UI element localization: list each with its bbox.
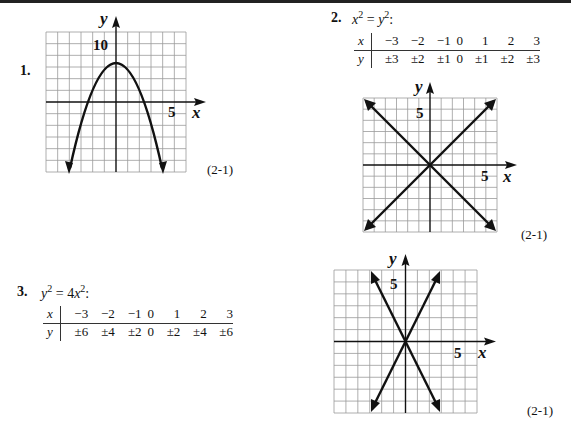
y-cell: ±6: [61, 324, 89, 342]
problem-2-equation: x2 = y2:: [352, 9, 393, 28]
y-header: y: [354, 51, 372, 69]
eq-colon: :: [85, 286, 89, 301]
eq-sign: =: [52, 286, 67, 301]
x-header: x: [43, 306, 61, 324]
x-header: x: [354, 33, 372, 51]
x-cell: −1: [115, 306, 142, 324]
y-cell: ±2: [115, 324, 142, 342]
problem-3-number: 3.: [17, 284, 28, 300]
y-cell: ±2: [399, 51, 425, 69]
y-cell: ±1: [463, 51, 489, 69]
x-tick-label: 5: [168, 104, 176, 120]
x-axis-label: x: [502, 167, 512, 186]
x-axis-label: x: [477, 343, 487, 362]
problem-3-equation: y2 = 4x2:: [41, 283, 89, 302]
eq-sign: =: [363, 12, 378, 27]
y-cell: ±3: [372, 51, 399, 69]
y-cell: 0: [142, 324, 155, 342]
y-cell: ±3: [514, 51, 540, 69]
y-tick-label: 5: [390, 276, 398, 292]
y-cell: ±4: [88, 324, 115, 342]
problem-2-number: 2.: [331, 10, 342, 26]
y-axis-label: y: [387, 249, 397, 268]
x-cell: 0: [142, 306, 155, 324]
x-cell: 3: [207, 306, 233, 324]
y-cell: ±6: [207, 324, 233, 342]
problem-2-reference: (2-1): [521, 227, 547, 243]
x-tick-label: 5: [481, 168, 489, 184]
y-tick-label: 10: [93, 37, 108, 53]
y-axis-label: y: [98, 9, 108, 28]
x-cell: −3: [372, 33, 399, 51]
x-row: x −3 −2 −1 0 1 2 3: [43, 306, 233, 324]
y-cell: ±2: [154, 324, 180, 342]
y-tick-label: 5: [416, 105, 424, 121]
problem-3-graph: 5 5 x y: [334, 250, 504, 420]
x-cell: −2: [88, 306, 115, 324]
x-cell: −1: [425, 33, 451, 51]
x-axis-label: x: [191, 103, 201, 122]
x-cell: −2: [399, 33, 425, 51]
y-axis-label: y: [413, 77, 423, 96]
problem-3-value-table: x −3 −2 −1 0 1 2 3 y ±6 ±4 ±2 0 ±2 ±4 ±6: [43, 306, 233, 341]
y-cell: ±2: [489, 51, 515, 69]
x-cell: −3: [61, 306, 89, 324]
problem-2-value-table: x −3 −2 −1 0 1 2 3 y ±3 ±2 ±1 0 ±1 ±2 ±3: [354, 33, 540, 68]
x-cell: 1: [154, 306, 180, 324]
x-cell: 1: [463, 33, 489, 51]
x-row: x −3 −2 −1 0 1 2 3: [354, 33, 540, 51]
eq-colon: :: [389, 12, 393, 27]
x-tick-label: 5: [454, 345, 462, 361]
y-header: y: [43, 324, 61, 342]
problem-2-graph: 5 5 x y: [363, 78, 533, 238]
top-rule: [0, 0, 571, 3]
x-cell: 2: [180, 306, 206, 324]
x-cell: 2: [489, 33, 515, 51]
problem-1-graph: 10 5 x y: [46, 14, 216, 184]
y-cell: ±4: [180, 324, 206, 342]
y-cell: ±1: [425, 51, 451, 69]
problem-1-reference: (2-1): [207, 162, 233, 178]
problem-3-reference: (2-1): [527, 403, 553, 419]
problem-1-number: 1.: [20, 63, 31, 79]
x-cell: 0: [451, 33, 463, 51]
x-cell: 3: [514, 33, 540, 51]
y-cell: 0: [451, 51, 463, 69]
y-row: y ±6 ±4 ±2 0 ±2 ±4 ±6: [43, 324, 233, 342]
y-row: y ±3 ±2 ±1 0 ±1 ±2 ±3: [354, 51, 540, 69]
